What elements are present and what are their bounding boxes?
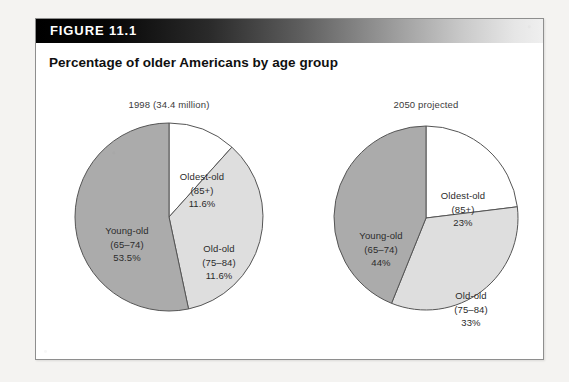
slice-age-range: (65–74): [82, 238, 172, 252]
slice-label-1998-old-old: Old-old (75–84) 11.6%: [174, 242, 264, 283]
figure-title: Percentage of older Americans by age gro…: [49, 55, 338, 70]
slice-percent: 23%: [418, 216, 508, 230]
slice-age-range: (85+): [157, 184, 247, 198]
slice-percent: 11.6%: [157, 197, 247, 211]
slice-label-2050-young-old: Young-old (65–74) 44%: [336, 229, 426, 270]
figure-number-label: FIGURE 11.1: [50, 23, 137, 38]
slice-percent: 11.6%: [174, 269, 264, 283]
slice-name: Young-old: [336, 229, 426, 243]
slice-name: Old-old: [426, 289, 516, 303]
pie-svg-1998: [69, 121, 269, 321]
slice-name: Old-old: [174, 242, 264, 256]
pie-chart-2050: 2050 projected Oldest-old (85+) 23% Old-…: [326, 77, 526, 360]
slice-age-range: (75–84): [426, 303, 516, 317]
slice-age-range: (65–74): [336, 243, 426, 257]
slice-name: Young-old: [82, 224, 172, 238]
slice-label-1998-oldest-old: Oldest-old (85+) 11.6%: [157, 170, 247, 211]
chart-area: 1998 (34.4 million) Oldest-old (85+) 11.…: [36, 77, 544, 360]
slice-name: Oldest-old: [418, 189, 508, 203]
slice-percent: 53.5%: [82, 251, 172, 265]
slice-label-2050-oldest-old: Oldest-old (85+) 23%: [418, 189, 508, 230]
slice-label-1998-young-old: Young-old (65–74) 53.5%: [82, 224, 172, 265]
slice-label-2050-old-old: Old-old (75–84) 33%: [426, 289, 516, 330]
slice-age-range: (85+): [418, 203, 508, 217]
pie-chart-1998: 1998 (34.4 million) Oldest-old (85+) 11.…: [69, 77, 269, 360]
figure-header-bar: FIGURE 11.1: [36, 19, 544, 43]
slice-percent: 33%: [426, 316, 516, 330]
slice-age-range: (75–84): [174, 256, 264, 270]
slice-name: Oldest-old: [157, 170, 247, 184]
figure-box: FIGURE 11.1 Percentage of older American…: [35, 18, 544, 360]
slice-percent: 44%: [336, 256, 426, 270]
pie-caption-1998: 1998 (34.4 million): [69, 99, 269, 110]
pie-caption-2050: 2050 projected: [326, 99, 526, 110]
